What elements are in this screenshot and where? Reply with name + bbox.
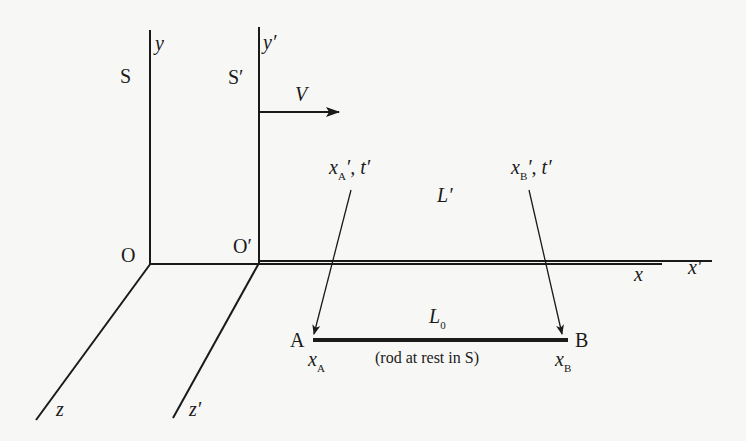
- s-z-axis-label: z: [56, 399, 64, 419]
- rest-length-sub: 0: [440, 319, 446, 331]
- event-a-var: x: [329, 156, 338, 178]
- event-a-suffix: ′, t′: [346, 156, 370, 178]
- s-x-axis-label: x: [634, 264, 643, 284]
- event-a-sub: A: [338, 170, 346, 182]
- s-prime-z-axis-label: z′: [189, 399, 201, 419]
- rod-pos-b-sub: B: [564, 362, 571, 374]
- rod-pos-a-var: x: [308, 348, 317, 370]
- event-b-suffix: ′, t′: [527, 156, 551, 178]
- rod-end-a-label: A: [290, 330, 304, 350]
- moving-length-label: L′: [437, 185, 453, 205]
- s-prime-frame-label: S′: [228, 67, 244, 87]
- moving-length-var: L: [437, 184, 448, 206]
- event-a-label: xA′, t′: [329, 157, 370, 177]
- event-b-sub: B: [520, 170, 527, 182]
- rest-length-var: L: [429, 305, 440, 327]
- event-b-var: x: [511, 156, 520, 178]
- rod-pos-b-var: x: [555, 348, 564, 370]
- s-z-axis: [36, 263, 151, 420]
- rod-pos-b-label: xB: [555, 349, 571, 369]
- rod-caption: (rod at rest in S): [375, 350, 479, 366]
- rest-length-label: L0: [429, 306, 446, 326]
- s-prime-origin-label: O′: [233, 236, 252, 256]
- s-origin-label: O: [121, 245, 135, 265]
- moving-length-suffix: ′: [448, 184, 452, 206]
- rod-pos-a-label: xA: [308, 349, 325, 369]
- event-b-label: xB′, t′: [511, 157, 552, 177]
- rod-pos-a-sub: A: [317, 362, 325, 374]
- s-frame-label: S: [120, 66, 131, 86]
- s-prime-x-axis-label: x′: [688, 257, 701, 277]
- reference-frames-diagram: [0, 0, 746, 441]
- velocity-label: V: [295, 84, 307, 104]
- s-prime-y-axis-label: y′: [263, 32, 276, 52]
- s-y-axis-label: y: [155, 33, 164, 53]
- s-prime-z-axis: [173, 263, 259, 418]
- rod-end-b-label: B: [575, 330, 588, 350]
